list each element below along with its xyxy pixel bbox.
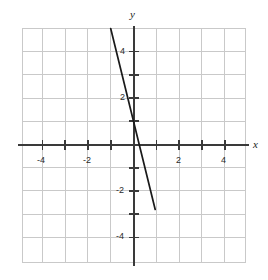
y-tick-label-pos2: 2 — [120, 93, 125, 102]
y-tick-label-neg4: -4 — [116, 232, 124, 241]
y-tick-label-neg2: -2 — [116, 186, 124, 195]
x-tick-label-pos4: 4 — [221, 156, 226, 165]
x-tick-label-neg4: -4 — [37, 156, 45, 165]
graph-canvas — [0, 0, 268, 280]
y-tick-label-pos4: 4 — [120, 47, 125, 56]
x-axis-label: x — [253, 139, 258, 150]
y-axis-label: y — [130, 9, 135, 20]
x-tick-label-neg2: -2 — [83, 156, 91, 165]
coordinate-plane-figure: -4 -2 2 4 4 2 -2 -4 y x — [0, 0, 268, 280]
x-tick-label-pos2: 2 — [176, 156, 181, 165]
